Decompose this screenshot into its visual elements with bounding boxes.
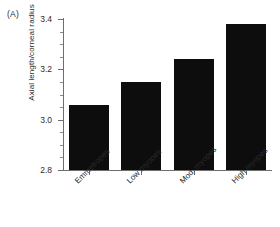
y-tick-minor (60, 57, 63, 58)
plot-area: 3.43.23.02.8 EmmetropesLow myopesMod. my… (63, 19, 272, 170)
y-tick-major: 3.4 (58, 19, 63, 20)
y-tick-major: 2.8 (58, 170, 63, 171)
y-tick-major: 3.0 (58, 120, 63, 121)
y-tick-minor (60, 157, 63, 158)
y-tick-minor (60, 145, 63, 146)
y-tick-minor (60, 132, 63, 133)
y-tick-minor (60, 32, 63, 33)
y-tick-minor (60, 44, 63, 45)
y-axis-title: Axial length/corneal radius (27, 0, 36, 128)
figure-panel-a: (A) Axial length/corneal radius 3.43.23.… (0, 0, 280, 227)
y-axis-spine (63, 18, 64, 171)
y-tick-minor (60, 82, 63, 83)
y-tick-label: 3.2 (40, 64, 52, 74)
y-tick-label: 2.8 (40, 165, 52, 175)
y-tick-major: 3.2 (58, 69, 63, 70)
y-tick-minor (60, 95, 63, 96)
y-tick-minor (60, 107, 63, 108)
y-tick-label: 3.4 (40, 14, 52, 24)
panel-label: (A) (7, 9, 19, 19)
y-tick-label: 3.0 (40, 115, 52, 125)
